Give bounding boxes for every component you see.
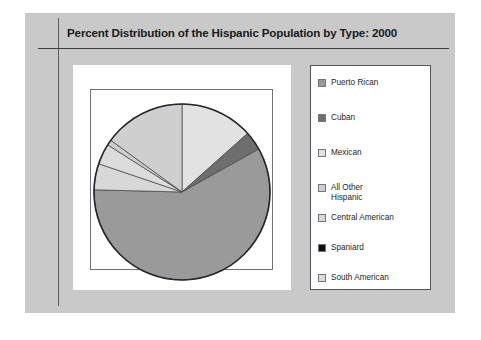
legend-label: All Other Hispanic bbox=[331, 183, 363, 203]
swatch-all-other-hispanic bbox=[318, 184, 326, 192]
legend-item-0[interactable]: Puerto Rican bbox=[318, 78, 378, 88]
swatch-central-american bbox=[318, 214, 326, 222]
swatch-puerto-rican bbox=[318, 79, 326, 87]
legend-label: South American bbox=[331, 273, 389, 283]
legend-item-4[interactable]: Central American bbox=[318, 213, 394, 223]
vertical-rule bbox=[58, 18, 59, 306]
swatch-mexican bbox=[318, 149, 326, 157]
swatch-cuban bbox=[318, 114, 326, 122]
legend: Puerto RicanCubanMexicanAll Other Hispan… bbox=[310, 65, 431, 290]
legend-label: Mexican bbox=[331, 148, 362, 158]
pie-chart bbox=[73, 65, 291, 290]
legend-item-3[interactable]: All Other Hispanic bbox=[318, 183, 363, 203]
swatch-spaniard bbox=[318, 244, 326, 252]
page-title: Percent Distribution of the Hispanic Pop… bbox=[67, 26, 447, 39]
legend-label: Central American bbox=[331, 213, 394, 223]
legend-item-5[interactable]: Spaniard bbox=[318, 243, 364, 253]
horizontal-rule bbox=[38, 48, 449, 49]
legend-label: Puerto Rican bbox=[331, 78, 378, 88]
plot-panel bbox=[73, 65, 291, 290]
swatch-south-american bbox=[318, 274, 326, 282]
legend-item-6[interactable]: South American bbox=[318, 273, 389, 283]
legend-item-2[interactable]: Mexican bbox=[318, 148, 362, 158]
legend-label: Spaniard bbox=[331, 243, 364, 253]
legend-label: Cuban bbox=[331, 113, 355, 123]
figure-container: Percent Distribution of the Hispanic Pop… bbox=[25, 13, 455, 313]
pie-svg bbox=[73, 65, 291, 290]
legend-item-1[interactable]: Cuban bbox=[318, 113, 355, 123]
